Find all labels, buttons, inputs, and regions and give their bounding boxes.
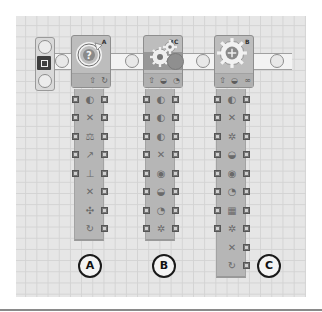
data-plug-row[interactable]: ◒ [214, 149, 250, 161]
output-plug-icon[interactable] [243, 207, 250, 214]
input-plug-icon[interactable] [143, 114, 150, 121]
output-plug-icon[interactable] [172, 170, 179, 177]
output-plug-icon[interactable] [172, 114, 179, 121]
data-plug-row[interactable]: ◐ [143, 94, 179, 106]
input-plug-icon[interactable] [143, 225, 150, 232]
output-plug-icon[interactable] [243, 133, 250, 140]
callout-marker-b: B [152, 254, 176, 278]
data-plug-row[interactable]: ◔ [214, 186, 250, 198]
data-plug-row[interactable]: ◐ [72, 94, 108, 106]
direction-icon: ✕ [225, 112, 239, 124]
data-plug-row[interactable]: ◉ [143, 168, 179, 180]
input-plug-icon[interactable] [143, 170, 150, 177]
start-point[interactable] [35, 37, 55, 91]
output-plug-icon[interactable] [243, 244, 250, 251]
data-hub-c[interactable]: ◐ ✕ ✲ ◒ ◉ ◔ ▦ ✲ ✕ ↻ [216, 89, 246, 278]
data-plug-row[interactable]: ◉ [214, 168, 250, 180]
output-plug-icon[interactable] [101, 114, 108, 121]
output-plug-icon[interactable] [243, 262, 250, 269]
input-plug-icon[interactable] [214, 96, 221, 103]
port-icon: ✕ [83, 112, 97, 124]
data-plug-row[interactable]: ↻ [72, 223, 108, 235]
input-plug-icon[interactable] [143, 151, 150, 158]
output-plug-icon[interactable] [243, 225, 250, 232]
rotation-out-icon: ↻ [225, 260, 239, 272]
data-hub-b[interactable]: ◐ ◐ ◐ ✕ ◉ ◒ ◔ ✲ [145, 89, 175, 241]
output-plug-icon[interactable] [101, 225, 108, 232]
data-plug-row[interactable]: ✣ [72, 205, 108, 217]
data-plug-row[interactable]: ◔ [143, 205, 179, 217]
right-motor-icon: ◐ [154, 112, 168, 124]
data-plug-row[interactable]: ✕ [214, 242, 250, 254]
output-plug-icon[interactable] [243, 151, 250, 158]
input-plug-icon[interactable] [72, 96, 79, 103]
input-plug-icon[interactable] [214, 225, 221, 232]
input-plug-icon[interactable] [72, 151, 79, 158]
output-plug-icon[interactable] [243, 188, 250, 195]
next-action-icon: ✲ [154, 223, 168, 235]
data-hub-a[interactable]: ◐ ✕ ⚖ ↗ ⊥ ✕ ✣ ↻ [74, 89, 104, 241]
output-plug-icon[interactable] [172, 225, 179, 232]
comparison-icon: ◐ [83, 94, 97, 106]
input-plug-icon[interactable] [143, 207, 150, 214]
power-icon: ◒ [154, 186, 168, 198]
data-plug-row[interactable]: ✕ [143, 149, 179, 161]
output-plug-icon[interactable] [172, 96, 179, 103]
data-plug-row[interactable]: ✲ [143, 223, 179, 235]
beam-connector-icon [55, 54, 69, 68]
input-plug-icon[interactable] [214, 114, 221, 121]
rotation-sensor-block[interactable]: A ? ⇧ ↻ [71, 35, 111, 88]
output-plug-icon[interactable] [243, 96, 250, 103]
action-icon: ✲ [225, 131, 239, 143]
output-plug-icon[interactable] [101, 133, 108, 140]
power-icon: ◒ [230, 76, 239, 85]
input-plug-icon[interactable] [143, 133, 150, 140]
config-strip: ⇧ ◒ ◔ [144, 73, 182, 87]
input-plug-icon[interactable] [214, 188, 221, 195]
input-plug-icon[interactable] [72, 114, 79, 121]
input-plug-icon[interactable] [72, 133, 79, 140]
output-plug-icon[interactable] [243, 170, 250, 177]
output-plug-icon[interactable] [172, 207, 179, 214]
steering-circle-icon [167, 53, 184, 70]
output-plug-icon[interactable] [172, 151, 179, 158]
beam-connector-icon [196, 54, 210, 68]
output-plug-icon[interactable] [101, 96, 108, 103]
data-plug-row[interactable]: ✲ [214, 223, 250, 235]
output-plug-icon[interactable] [101, 188, 108, 195]
input-plug-icon[interactable] [214, 170, 221, 177]
callout-marker-c: C [257, 254, 281, 278]
steering-icon: ◉ [154, 168, 168, 180]
input-plug-icon[interactable] [214, 151, 221, 158]
output-plug-icon[interactable] [101, 151, 108, 158]
input-plug-icon[interactable] [72, 170, 79, 177]
output-plug-icon[interactable] [172, 133, 179, 140]
data-plug-row[interactable]: ↻ [214, 260, 250, 272]
move-block[interactable]: BC ⇧ ◒ ◔ [143, 35, 183, 88]
data-plug-row[interactable]: ◐ [143, 112, 179, 124]
duration-icon: ◔ [154, 205, 168, 217]
motor-block[interactable]: B ⇧ ◒ ∞ [214, 35, 254, 88]
output-plug-icon[interactable] [101, 207, 108, 214]
data-plug-row[interactable]: ✲ [214, 131, 250, 143]
output-plug-icon[interactable] [243, 114, 250, 121]
data-plug-row[interactable]: ⚖ [72, 131, 108, 143]
data-plug-row[interactable]: ◐ [143, 131, 179, 143]
data-plug-row[interactable]: ⊥ [72, 168, 108, 180]
input-plug-icon[interactable] [214, 133, 221, 140]
data-plug-row[interactable]: ◒ [143, 186, 179, 198]
output-plug-icon[interactable] [172, 188, 179, 195]
data-plug-row[interactable]: ▦ [214, 205, 250, 217]
rotation-out-icon: ↻ [83, 223, 97, 235]
data-plug-row[interactable]: ✕ [214, 112, 250, 124]
output-plug-icon[interactable] [101, 170, 108, 177]
data-plug-row[interactable]: ✕ [72, 186, 108, 198]
trigger-point-icon: ⊥ [83, 168, 97, 180]
control-icon: ◉ [225, 168, 239, 180]
input-plug-icon[interactable] [143, 96, 150, 103]
data-plug-row[interactable]: ◐ [214, 94, 250, 106]
input-plug-icon[interactable] [143, 188, 150, 195]
data-plug-row[interactable]: ✕ [72, 112, 108, 124]
input-plug-icon[interactable] [214, 207, 221, 214]
data-plug-row[interactable]: ↗ [72, 149, 108, 161]
